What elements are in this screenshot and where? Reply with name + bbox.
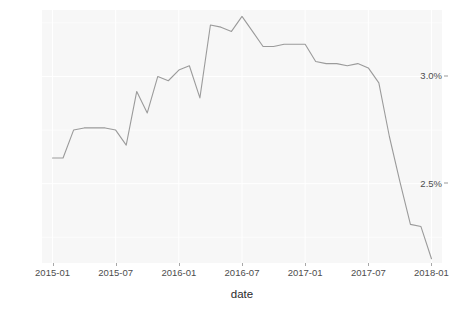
x-tick-mark xyxy=(53,263,54,266)
plot-panel xyxy=(42,10,442,263)
x-axis-tick-label: 2017-01 xyxy=(288,268,323,278)
y-tick-mark xyxy=(444,76,448,77)
x-tick-mark xyxy=(431,263,432,266)
x-axis-tick-label: 2016-07 xyxy=(225,268,260,278)
x-tick-mark xyxy=(368,263,369,266)
x-axis-tick-label: 2018-01 xyxy=(414,268,449,278)
x-axis-tick-label: 2017-07 xyxy=(351,268,386,278)
y-tick-mark xyxy=(444,183,448,184)
x-tick-mark xyxy=(116,263,117,266)
x-axis-title: date xyxy=(42,289,442,301)
x-axis-tick-label: 2016-01 xyxy=(161,268,196,278)
x-axis-tick-label: 2015-07 xyxy=(98,268,133,278)
y-tick-text: 3.0% xyxy=(420,70,442,81)
y-tick-text: 2.5% xyxy=(420,178,442,189)
y-axis-tick-label: 3.0% xyxy=(407,71,449,81)
x-tick-mark xyxy=(179,263,180,266)
chart-figure: 2.5%3.0% 2015-012015-072016-012016-07201… xyxy=(0,0,449,312)
x-tick-mark xyxy=(242,263,243,266)
x-axis-tick-label: 2015-01 xyxy=(35,268,70,278)
plot-svg xyxy=(42,10,442,263)
y-axis-tick-label: 2.5% xyxy=(407,179,449,189)
gridlines xyxy=(42,10,442,263)
x-tick-mark xyxy=(305,263,306,266)
